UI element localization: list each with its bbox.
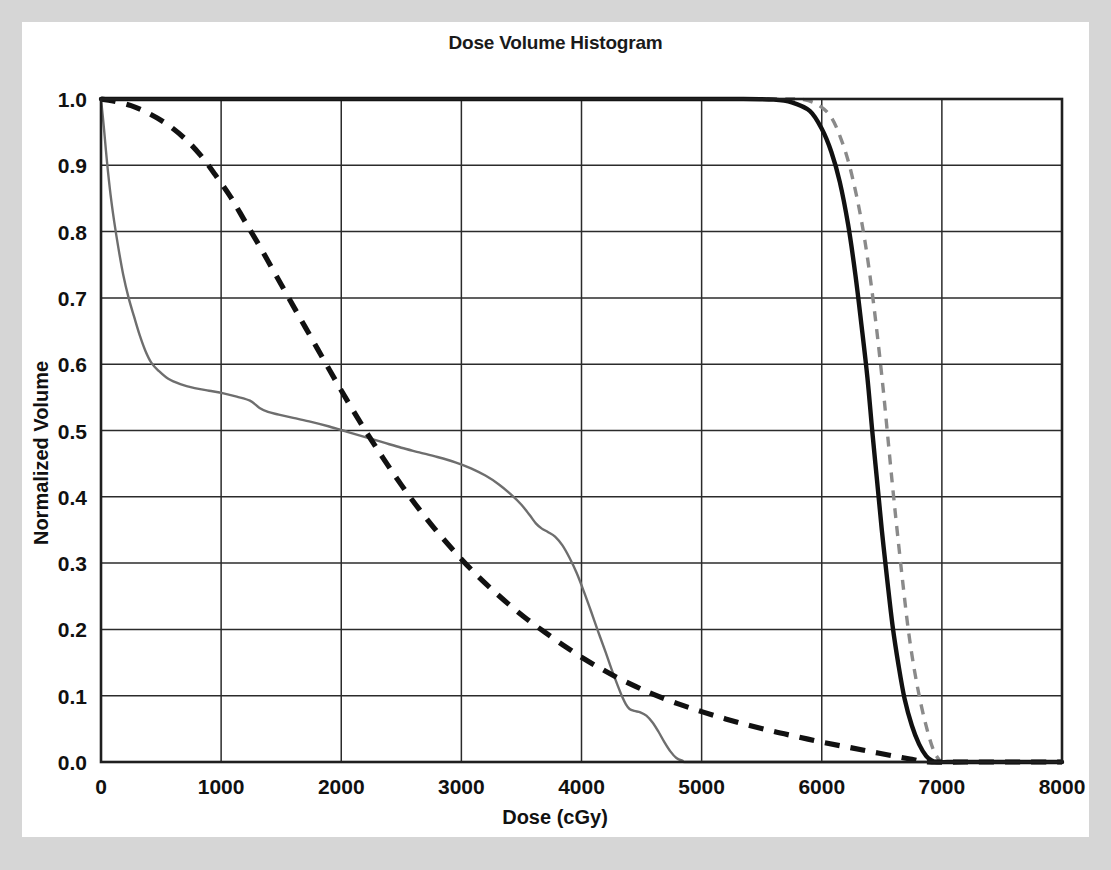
y-tick-label: 1.0 — [58, 88, 87, 111]
x-axis-tick-labels: 010002000300040005000600070008000 — [95, 775, 1085, 798]
y-tick-label: 0.9 — [58, 154, 87, 177]
y-tick-label: 0.6 — [58, 353, 87, 376]
y-axis-title: Normalized Volume — [30, 361, 52, 545]
y-tick-label: 0.8 — [58, 221, 88, 244]
x-tick-label: 8000 — [1039, 775, 1086, 798]
x-tick-label: 1000 — [198, 775, 245, 798]
figure-panel: Dose Volume Histogram 010002000300040005… — [22, 22, 1089, 837]
x-tick-label: 6000 — [798, 775, 845, 798]
x-axis-title: Dose (cGy) — [502, 806, 608, 828]
x-tick-label: 7000 — [919, 775, 966, 798]
y-tick-label: 0.3 — [58, 552, 87, 575]
y-tick-label: 0.0 — [58, 751, 87, 774]
chart-plot-area: 010002000300040005000600070008000 0.00.1… — [22, 22, 1089, 837]
y-tick-label: 0.7 — [58, 287, 87, 310]
y-axis-tick-labels: 0.00.10.20.30.40.50.60.70.80.91.0 — [58, 88, 88, 774]
dose-volume-histogram-chart: 010002000300040005000600070008000 0.00.1… — [22, 22, 1089, 837]
scanned-page: Dose Volume Histogram 010002000300040005… — [0, 0, 1111, 870]
y-tick-label: 0.5 — [58, 420, 88, 443]
y-tick-label: 0.4 — [58, 486, 88, 509]
y-tick-label: 0.2 — [58, 618, 87, 641]
x-tick-label: 4000 — [558, 775, 605, 798]
x-tick-label: 0 — [95, 775, 107, 798]
x-tick-label: 5000 — [678, 775, 725, 798]
x-tick-label: 2000 — [318, 775, 365, 798]
y-tick-label: 0.1 — [58, 685, 88, 708]
grid-lines — [101, 99, 1062, 762]
x-tick-label: 3000 — [438, 775, 485, 798]
